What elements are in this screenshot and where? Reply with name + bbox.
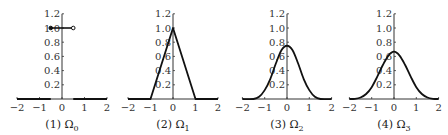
x-tick-label: 1 [306,102,312,113]
x-tick-label: 2 [328,102,334,113]
panel-omega-1: −2−10120.20.40.60.81.01.2(2) Ω1 [121,8,222,133]
bspline-figure: −2−10120.20.40.60.81.01.2(1) Ω0 −2−10120… [0,0,448,135]
x-tick-label: 0 [59,102,65,113]
y-tick-label: 1.2 [269,8,285,19]
x-tick-label: −2 [121,102,136,113]
x-tick-label: −1 [364,102,379,113]
x-tick-label: 1 [81,102,87,113]
y-tick-label: 0.6 [44,51,60,62]
filled-dot-marker [49,26,53,30]
x-tick-label: 0 [170,102,176,113]
x-tick-label: −1 [32,102,47,113]
panel-caption: (1) Ω0 [45,118,78,133]
x-tick-label: 2 [435,102,441,113]
x-tick-label: −2 [10,102,25,113]
x-tick-label: 0 [284,102,290,113]
x-tick-label: 1 [192,102,198,113]
panel-caption: (2) Ω1 [156,118,189,133]
x-tick-label: 2 [215,102,221,113]
y-tick-label: 1.0 [155,23,171,34]
x-tick-label: 1 [413,102,419,113]
y-tick-label: 0.2 [155,79,171,90]
panel-omega-3: −2−10120.20.40.60.81.01.2(4) Ω3 [342,8,442,133]
y-tick-label: 0.6 [376,51,392,62]
y-tick-label: 1.2 [155,8,171,19]
panel-caption: (4) Ω3 [377,118,410,133]
y-tick-label: 0.4 [44,65,60,76]
panel-omega-0: −2−10120.20.40.60.81.01.2(1) Ω0 [10,8,111,133]
y-tick-label: 0.8 [269,37,285,48]
y-tick-label: 0.2 [44,79,60,90]
x-tick-label: −2 [342,102,357,113]
y-tick-label: 1.2 [376,8,392,19]
y-tick-label: 0.8 [376,37,392,48]
y-tick-label: 0.2 [269,79,285,90]
panel-caption: (3) Ω2 [270,118,303,133]
x-tick-label: 2 [104,102,110,113]
y-tick-label: 0.8 [44,37,60,48]
x-tick-label: −2 [235,102,250,113]
x-tick-label: −1 [143,102,158,113]
y-tick-label: 1.2 [44,8,60,19]
x-tick-label: −1 [257,102,272,113]
y-tick-label: 1.0 [376,23,392,34]
y-tick-label: 0.2 [376,79,392,90]
open-circle-marker [71,26,75,30]
y-tick-label: 1.0 [269,23,285,34]
x-tick-label: 0 [391,102,397,113]
panel-omega-2: −2−10120.20.40.60.81.01.2(3) Ω2 [235,8,335,133]
